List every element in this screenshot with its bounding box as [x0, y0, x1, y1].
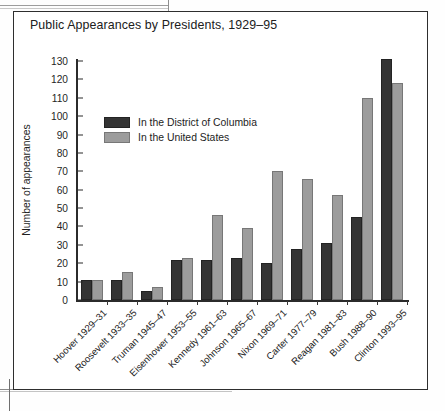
y-axis-label: Number of appearances	[21, 124, 32, 235]
bar	[381, 59, 392, 300]
y-axis-tick-mark	[78, 300, 83, 301]
plot-area	[77, 61, 407, 300]
chart-legend: In the District of Columbia In the Unite…	[104, 117, 257, 147]
y-axis-tick-mark	[78, 208, 83, 209]
bar-group	[141, 287, 163, 300]
figure-page: Public Appearances by Presidents, 1929–9…	[0, 0, 445, 411]
bar	[291, 249, 302, 300]
bar-group	[171, 258, 193, 300]
bar	[92, 280, 103, 300]
x-axis-tick-mark	[257, 301, 258, 305]
bar	[231, 258, 242, 300]
bar	[201, 260, 212, 300]
legend-label-district: In the District of Columbia	[138, 117, 257, 128]
y-axis-tick-mark	[78, 263, 83, 264]
bar-group	[381, 59, 403, 300]
y-axis-tick-mark	[78, 61, 83, 62]
y-axis-tick-mark	[78, 244, 83, 245]
y-axis-tick-label: 50	[57, 203, 68, 214]
x-axis-line	[76, 300, 409, 302]
x-axis-tick-mark	[227, 301, 228, 305]
bar	[362, 98, 373, 300]
bar-group	[291, 179, 313, 300]
y-axis-tick-label: 60	[57, 184, 68, 195]
x-axis-tick-mark	[377, 301, 378, 305]
bar	[392, 83, 403, 300]
x-axis-tick-mark	[287, 301, 288, 305]
x-axis-tick-mark	[107, 301, 108, 305]
y-axis-tick-label: 10	[57, 276, 68, 287]
bar	[122, 272, 133, 300]
y-axis-tick-mark	[78, 171, 83, 172]
legend-swatch-united-states	[104, 132, 130, 143]
y-axis-tick-label: 20	[57, 258, 68, 269]
bar-group	[231, 228, 253, 300]
bar	[182, 258, 193, 300]
page-rule-top-secondary	[0, 8, 168, 9]
legend-item-united-states: In the United States	[104, 132, 257, 143]
bar	[111, 280, 122, 300]
x-axis-tick-mark	[137, 301, 138, 305]
y-axis-tick-mark	[78, 152, 83, 153]
bar	[302, 179, 313, 300]
legend-label-united-states: In the United States	[138, 132, 229, 143]
y-axis-tick-mark	[78, 226, 83, 227]
bar-group	[81, 280, 103, 300]
y-axis-tick-label: 130	[51, 56, 68, 67]
legend-item-district: In the District of Columbia	[104, 117, 257, 128]
y-axis-tick-mark	[78, 281, 83, 282]
y-axis-tick-label: 0	[62, 295, 68, 306]
y-axis-tick-label: 100	[51, 111, 68, 122]
legend-swatch-district	[104, 117, 130, 128]
page-rule-top	[0, 5, 168, 6]
bar-group	[351, 98, 373, 300]
bar	[212, 215, 223, 300]
bar-group	[111, 272, 133, 300]
y-axis-tick-mark	[78, 116, 83, 117]
y-axis-tick-mark	[78, 79, 83, 80]
y-axis-tick-label: 40	[57, 221, 68, 232]
bar	[321, 243, 332, 300]
bar	[332, 195, 343, 300]
bar	[351, 217, 362, 300]
bar-group	[201, 215, 223, 300]
bar	[141, 291, 152, 300]
y-axis-tick-label: 120	[51, 74, 68, 85]
y-axis-tick-label: 70	[57, 166, 68, 177]
y-axis-tick-mark	[78, 189, 83, 190]
x-axis-tick-mark	[407, 301, 408, 305]
bar-group	[321, 195, 343, 300]
y-axis-tick-label: 30	[57, 239, 68, 250]
bar	[171, 260, 182, 300]
y-axis-tick-label: 80	[57, 147, 68, 158]
chart-title: Public Appearances by Presidents, 1929–9…	[30, 18, 277, 32]
y-axis-tick-mark	[78, 134, 83, 135]
bar	[272, 171, 283, 300]
y-axis-tick-label: 90	[57, 129, 68, 140]
bar	[242, 228, 253, 300]
x-axis-tick-mark	[347, 301, 348, 305]
bar	[261, 263, 272, 300]
x-axis-tick-mark	[317, 301, 318, 305]
x-axis-tick-mark	[197, 301, 198, 305]
y-axis-tick-mark	[78, 97, 83, 98]
bar-group	[261, 171, 283, 300]
bar	[81, 280, 92, 300]
y-axis-tick-label: 110	[52, 92, 68, 103]
bar	[152, 287, 163, 300]
page-rule-left	[9, 379, 10, 411]
x-axis-tick-mark	[167, 301, 168, 305]
